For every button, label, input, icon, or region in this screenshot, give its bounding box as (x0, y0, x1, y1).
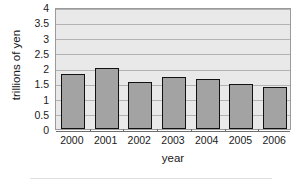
bar-slot (90, 9, 124, 129)
x-axis-tickmark (191, 129, 192, 132)
x-axis-tickmark (258, 129, 259, 132)
bar-series (56, 9, 290, 129)
bar-2004[interactable] (196, 79, 220, 129)
x-tick-label-2003: 2003 (161, 134, 184, 147)
bar-2003[interactable] (162, 77, 186, 129)
y-tick-label: 2 (43, 64, 49, 74)
footer-divider (30, 178, 272, 179)
x-axis-title: year (55, 152, 291, 164)
y-tick-label: 4 (43, 3, 49, 13)
y-tick-label: 0 (43, 125, 49, 135)
x-axis-tickmark (123, 129, 124, 132)
x-tick-label-2005: 2005 (229, 134, 252, 147)
y-tick-label: 3 (43, 34, 49, 44)
y-tick-label: 2.5 (34, 49, 49, 59)
x-axis-tickmark (90, 129, 91, 132)
x-tick-label-2006: 2006 (262, 134, 285, 147)
y-tick-label: 0.5 (34, 110, 49, 120)
bar-2000[interactable] (61, 74, 85, 129)
y-tick-label: 1.5 (34, 79, 49, 89)
plot-area (55, 8, 291, 130)
x-axis-tickmark (225, 129, 226, 132)
x-tick-label-2000: 2000 (60, 134, 83, 147)
bar-chart-figure: trillions of yen 00.511.522.533.54 20002… (0, 0, 302, 184)
x-tick-label-2002: 2002 (128, 134, 151, 147)
x-tick-label-2004: 2004 (195, 134, 218, 147)
x-tick-label-2001: 2001 (94, 134, 117, 147)
bar-2005[interactable] (229, 84, 253, 129)
bar-2001[interactable] (95, 68, 119, 129)
gridline (56, 131, 290, 132)
bar-slot (157, 9, 191, 129)
bar-slot (123, 9, 157, 129)
bar-slot (258, 9, 292, 129)
y-axis-tick-labels: 00.511.522.533.54 (18, 6, 52, 130)
x-axis-tickmark (157, 129, 158, 132)
bar-slot (225, 9, 259, 129)
x-axis-tick-labels: 2000200120022003200420052006 (55, 134, 291, 148)
y-tick-label: 3.5 (34, 18, 49, 28)
bar-2006[interactable] (263, 87, 287, 129)
bar-2002[interactable] (128, 82, 152, 129)
bar-slot (191, 9, 225, 129)
y-tick-label: 1 (43, 95, 49, 105)
bar-slot (56, 9, 90, 129)
